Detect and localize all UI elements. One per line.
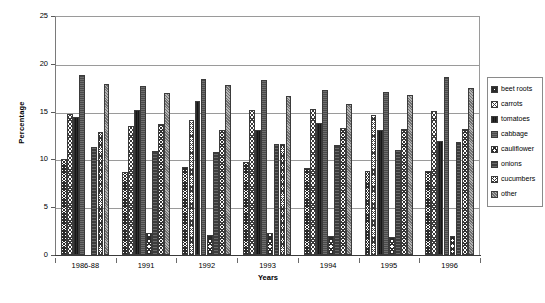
bar-cauliflower-1992[interactable] xyxy=(207,235,213,255)
bar-cucumbers-1991[interactable] xyxy=(158,124,164,255)
legend-item-other[interactable]: other xyxy=(491,187,539,201)
legend-swatch-icon xyxy=(491,161,498,168)
bar-beet-roots-1993[interactable] xyxy=(243,162,249,255)
bar-other-1994[interactable] xyxy=(346,104,352,255)
bar-tomatoes-1993[interactable] xyxy=(255,130,261,255)
x-axis-tick-mark xyxy=(237,258,238,263)
bar-carrots-1996[interactable] xyxy=(431,111,437,255)
legend-swatch-icon xyxy=(491,146,498,153)
legend-item-label: onions xyxy=(501,160,522,168)
bar-tomatoes-1992[interactable] xyxy=(195,101,201,255)
legend-item-label: carrots xyxy=(501,100,522,108)
bar-onions-1995[interactable] xyxy=(395,150,401,255)
bar-cucumbers-1995[interactable] xyxy=(401,129,407,255)
bar-cauliflower-1991[interactable] xyxy=(146,233,152,255)
x-axis-tick-label: 1995 xyxy=(359,261,420,270)
legend-item-cabbage[interactable]: cabbage xyxy=(491,127,539,141)
legend-swatch-icon xyxy=(491,191,498,198)
legend-swatch-icon xyxy=(491,86,498,93)
bar-carrots-1991[interactable] xyxy=(128,126,134,255)
bar-group xyxy=(55,16,116,255)
legend-item-label: tomatoes xyxy=(501,115,530,123)
bar-carrots-1995[interactable] xyxy=(371,115,377,255)
bar-cauliflower-1994[interactable] xyxy=(328,236,334,255)
chart-legend: beet rootscarrotstomatoescabbagecauliflo… xyxy=(487,77,543,207)
bar-cabbage-1994[interactable] xyxy=(322,90,328,255)
bar-beet-roots-1991[interactable] xyxy=(122,172,128,255)
bar-cucumbers-1986-88[interactable] xyxy=(98,132,104,255)
bar-tomatoes-1991[interactable] xyxy=(134,110,140,255)
bar-cabbage-1993[interactable] xyxy=(261,80,267,255)
x-axis-tick-label: 1993 xyxy=(237,261,298,270)
x-axis-tick-label: 1994 xyxy=(298,261,359,270)
bar-onions-1991[interactable] xyxy=(152,151,158,255)
bar-cabbage-1992[interactable] xyxy=(201,79,207,255)
legend-item-beet-roots[interactable]: beet roots xyxy=(491,82,539,96)
bar-carrots-1986-88[interactable] xyxy=(67,114,73,255)
bar-cucumbers-1993[interactable] xyxy=(280,144,286,255)
bar-beet-roots-1995[interactable] xyxy=(365,171,371,255)
bar-cauliflower-1996[interactable] xyxy=(450,236,456,255)
bar-cucumbers-1994[interactable] xyxy=(340,128,346,255)
bar-onions-1986-88[interactable] xyxy=(91,147,97,255)
bar-tomatoes-1995[interactable] xyxy=(377,130,383,255)
legend-swatch-icon xyxy=(491,101,498,108)
y-axis-title: Percentage xyxy=(17,83,26,163)
bar-cabbage-1995[interactable] xyxy=(383,92,389,255)
legend-item-cauliflower[interactable]: cauliflower xyxy=(491,142,539,156)
bar-group xyxy=(359,16,420,255)
bar-cauliflower-1993[interactable] xyxy=(267,233,273,255)
legend-item-onions[interactable]: onions xyxy=(491,157,539,171)
bar-tomatoes-1986-88[interactable] xyxy=(73,117,79,255)
bar-other-1995[interactable] xyxy=(407,95,413,255)
legend-swatch-icon xyxy=(491,176,498,183)
x-axis: 1986-88199119921993199419951996 xyxy=(55,258,481,274)
bar-cabbage-1996[interactable] xyxy=(444,77,450,255)
x-axis-tick-mark xyxy=(359,258,360,263)
bar-onions-1994[interactable] xyxy=(334,145,340,255)
bar-tomatoes-1996[interactable] xyxy=(437,141,443,255)
x-axis-tick-label: 1986-88 xyxy=(55,261,116,270)
bar-cauliflower-1995[interactable] xyxy=(389,237,395,255)
x-axis-tick-mark xyxy=(419,258,420,263)
bar-onions-1992[interactable] xyxy=(213,152,219,255)
bar-beet-roots-1992[interactable] xyxy=(182,167,188,255)
bar-carrots-1992[interactable] xyxy=(189,120,195,255)
bar-beet-roots-1996[interactable] xyxy=(425,171,431,255)
bar-carrots-1993[interactable] xyxy=(249,110,255,255)
legend-item-tomatoes[interactable]: tomatoes xyxy=(491,112,539,126)
bar-other-1986-88[interactable] xyxy=(104,84,110,255)
bar-other-1991[interactable] xyxy=(164,93,170,255)
y-axis-tick-label: 5 xyxy=(44,203,48,211)
bar-other-1993[interactable] xyxy=(286,96,292,255)
bar-tomatoes-1994[interactable] xyxy=(316,123,322,255)
bar-other-1996[interactable] xyxy=(468,88,474,255)
bar-group xyxy=(237,16,298,255)
x-axis-tick-mark xyxy=(116,258,117,263)
bar-onions-1993[interactable] xyxy=(274,144,280,255)
bar-group xyxy=(298,16,359,255)
bar-onions-1996[interactable] xyxy=(456,142,462,255)
bar-cabbage-1991[interactable] xyxy=(140,86,146,255)
chart-container: 0510152025 Percentage 1986-8819911992199… xyxy=(0,0,545,303)
bar-cabbage-1986-88[interactable] xyxy=(79,75,85,255)
bar-beet-roots-1994[interactable] xyxy=(304,168,310,255)
legend-item-label: cabbage xyxy=(501,130,528,138)
x-axis-tick-label: 1996 xyxy=(419,261,480,270)
legend-swatch-icon xyxy=(491,116,498,123)
y-axis-tick-label: 20 xyxy=(40,60,48,68)
x-axis-tick-mark xyxy=(176,258,177,263)
y-axis: 0510152025 xyxy=(0,0,55,303)
bar-group xyxy=(176,16,237,255)
legend-item-cucumbers[interactable]: cucumbers xyxy=(491,172,539,186)
bar-carrots-1994[interactable] xyxy=(310,109,316,255)
bar-beet-roots-1986-88[interactable] xyxy=(61,159,67,255)
legend-item-label: cucumbers xyxy=(501,175,535,183)
y-axis-tick-label: 15 xyxy=(40,108,48,116)
bar-other-1992[interactable] xyxy=(225,85,231,255)
y-axis-tick-label: 10 xyxy=(40,155,48,163)
legend-swatch-icon xyxy=(491,131,498,138)
legend-item-carrots[interactable]: carrots xyxy=(491,97,539,111)
bar-cucumbers-1996[interactable] xyxy=(462,129,468,255)
bar-cucumbers-1992[interactable] xyxy=(219,130,225,255)
